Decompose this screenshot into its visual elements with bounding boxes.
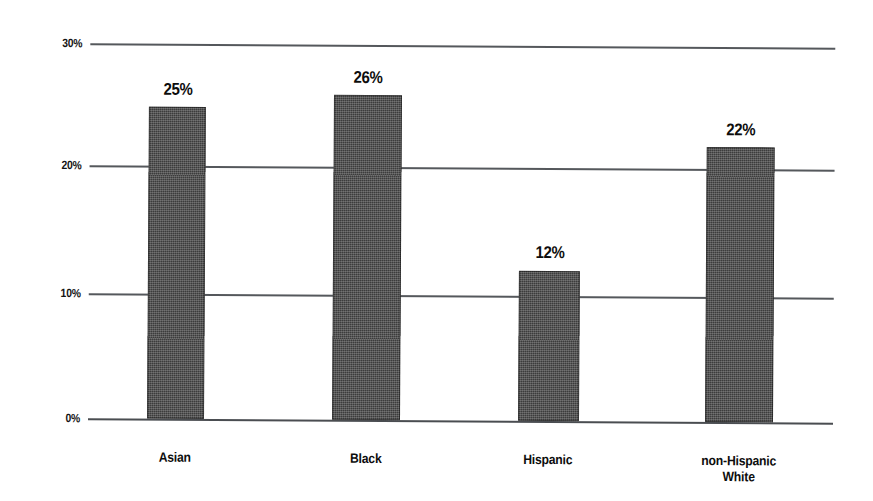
category-label-non-hispanic-white-line2: White (689, 469, 788, 486)
y-axis-tick-30: 30% (38, 36, 83, 50)
bar-asian (147, 107, 206, 419)
category-label-hispanic: Hispanic (503, 452, 593, 469)
category-label-asian: Asian (130, 449, 220, 466)
y-axis-tick-10: 10% (36, 286, 81, 300)
gridline-30 (90, 43, 835, 50)
bar-hispanic (518, 271, 580, 421)
category-label-black-line1: Black (350, 451, 382, 466)
bar-chart: 30% 20% 10% 0% 25% 26% 12% 22% Asian Bla… (0, 0, 873, 501)
category-label-black: Black (321, 451, 411, 468)
category-label-hispanic-line1: Hispanic (523, 452, 572, 467)
value-label-non-hispanic-white: 22% (705, 120, 777, 140)
value-label-black: 26% (332, 68, 404, 88)
bar-black (332, 95, 402, 420)
value-label-hispanic: 12% (514, 243, 586, 263)
y-axis-tick-20: 20% (37, 158, 82, 172)
bar-non-hispanic-white (705, 147, 775, 422)
y-axis-tick-0: 0% (35, 411, 80, 425)
plot-area: 30% 20% 10% 0% 25% 26% 12% 22% Asian Bla… (0, 0, 873, 501)
category-label-non-hispanic-white-line1: non-Hispanic (701, 453, 776, 468)
category-label-non-hispanic-white: non-Hispanic White (689, 453, 788, 487)
value-label-asian: 25% (142, 80, 214, 100)
category-label-asian-line1: Asian (159, 450, 191, 465)
